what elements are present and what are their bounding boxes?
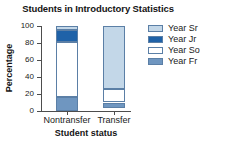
chart-title: Students in Introductory Statistics [0,3,196,14]
y-tick-label: 100 [21,22,34,30]
y-tick: 20 [37,94,41,95]
bar-segment-year-jr [56,30,78,42]
legend-swatch [148,58,163,65]
legend-label: Year Sr [168,24,198,33]
y-axis-title: Percentage [4,44,14,93]
x-axis-title: Student status [55,128,118,138]
plot-area: 020406080100 NontransferTransfer Percent… [41,26,131,111]
y-tick-label: 40 [25,73,34,81]
x-category-label: Nontransfer [43,115,90,125]
bar-segment-year-so [103,89,125,103]
bar-segment-year-fr [56,97,78,111]
legend-item[interactable]: Year Sr [148,23,200,34]
y-tick-label: 60 [25,56,34,64]
y-tick: 100 [37,26,41,27]
chart-legend: Year SrYear JrYear SoYear Fr [148,23,200,67]
legend-label: Year Fr [168,57,197,66]
x-category-label: Transfer [97,115,130,125]
legend-item[interactable]: Year So [148,45,200,56]
y-axis-line [41,26,42,111]
y-tick: 40 [37,77,41,78]
x-axis-line [41,111,131,112]
y-tick-label: 20 [25,90,34,98]
bar-segment-year-so [56,42,78,96]
bar-transfer [103,26,125,111]
stacked-bar-chart: Students in Introductory Statistics 0204… [0,0,230,143]
legend-item[interactable]: Year Fr [148,56,200,67]
legend-label: Year Jr [168,35,196,44]
y-tick: 60 [37,60,41,61]
y-tick-label: 80 [25,39,34,47]
bar-nontransfer [56,26,78,111]
legend-swatch [148,36,163,43]
y-tick: 0 [37,111,41,112]
legend-label: Year So [168,46,200,55]
legend-swatch [148,47,163,54]
bar-segment-year-sr [103,26,125,89]
legend-item[interactable]: Year Jr [148,34,200,45]
y-tick-label: 0 [30,107,34,115]
y-tick: 80 [37,43,41,44]
bar-segment-year-fr [103,103,125,109]
legend-swatch [148,25,163,32]
